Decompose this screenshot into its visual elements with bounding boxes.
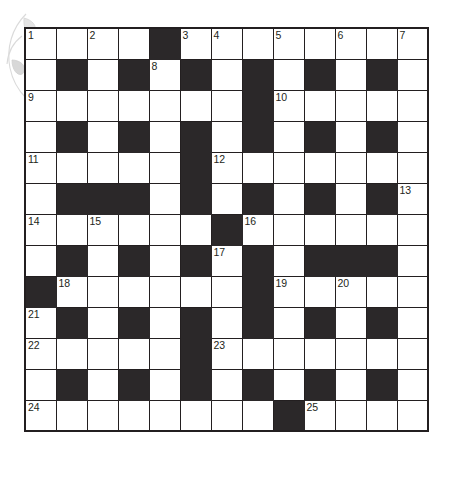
crossword-cell[interactable]	[87, 90, 118, 121]
crossword-cell[interactable]	[273, 307, 304, 338]
crossword-cell[interactable]	[149, 245, 180, 276]
crossword-cell[interactable]	[335, 183, 366, 214]
crossword-cell-numbered[interactable]: 24	[25, 400, 56, 431]
crossword-cell[interactable]	[25, 369, 56, 400]
crossword-cell[interactable]	[211, 276, 242, 307]
crossword-cell[interactable]	[180, 90, 211, 121]
crossword-cell[interactable]	[273, 369, 304, 400]
crossword-cell[interactable]	[304, 276, 335, 307]
crossword-cell-numbered[interactable]: 25	[304, 400, 335, 431]
crossword-cell-numbered[interactable]: 9	[25, 90, 56, 121]
crossword-cell[interactable]	[87, 338, 118, 369]
crossword-cell[interactable]	[366, 214, 397, 245]
crossword-cell[interactable]	[25, 121, 56, 152]
crossword-cell[interactable]	[366, 28, 397, 59]
crossword-cell[interactable]	[118, 90, 149, 121]
crossword-cell[interactable]	[118, 338, 149, 369]
crossword-cell[interactable]	[211, 183, 242, 214]
crossword-cell[interactable]	[56, 338, 87, 369]
crossword-cell-numbered[interactable]: 21	[25, 307, 56, 338]
crossword-cell-numbered[interactable]: 2	[87, 28, 118, 59]
crossword-cell[interactable]	[304, 214, 335, 245]
crossword-cell[interactable]	[87, 59, 118, 90]
crossword-cell[interactable]	[273, 121, 304, 152]
crossword-cell-numbered[interactable]: 6	[335, 28, 366, 59]
crossword-cell[interactable]	[149, 400, 180, 431]
crossword-cell[interactable]	[180, 400, 211, 431]
crossword-cell[interactable]	[366, 338, 397, 369]
crossword-cell[interactable]	[242, 400, 273, 431]
crossword-cell[interactable]	[335, 338, 366, 369]
crossword-cell[interactable]	[118, 28, 149, 59]
crossword-cell[interactable]	[118, 400, 149, 431]
crossword-cell[interactable]	[304, 152, 335, 183]
crossword-cell-numbered[interactable]: 12	[211, 152, 242, 183]
crossword-cell-numbered[interactable]: 20	[335, 276, 366, 307]
crossword-cell[interactable]	[211, 59, 242, 90]
crossword-cell-numbered[interactable]: 10	[273, 90, 304, 121]
crossword-cell[interactable]	[211, 369, 242, 400]
crossword-cell-numbered[interactable]: 8	[149, 59, 180, 90]
crossword-cell[interactable]	[87, 400, 118, 431]
crossword-cell[interactable]	[335, 90, 366, 121]
crossword-cell-numbered[interactable]: 4	[211, 28, 242, 59]
crossword-cell[interactable]	[397, 338, 428, 369]
crossword-cell-numbered[interactable]: 17	[211, 245, 242, 276]
crossword-cell[interactable]	[180, 276, 211, 307]
crossword-cell[interactable]	[397, 59, 428, 90]
crossword-cell[interactable]	[335, 59, 366, 90]
crossword-cell[interactable]	[149, 183, 180, 214]
crossword-cell[interactable]	[25, 59, 56, 90]
crossword-cell[interactable]	[149, 369, 180, 400]
crossword-cell[interactable]	[397, 245, 428, 276]
crossword-cell[interactable]	[87, 121, 118, 152]
crossword-cell[interactable]	[149, 338, 180, 369]
crossword-cell[interactable]	[397, 121, 428, 152]
crossword-cell[interactable]	[304, 338, 335, 369]
crossword-cell[interactable]	[273, 245, 304, 276]
crossword-cell[interactable]	[149, 307, 180, 338]
crossword-cell[interactable]	[366, 400, 397, 431]
crossword-cell[interactable]	[87, 369, 118, 400]
crossword-cell[interactable]	[180, 214, 211, 245]
crossword-cell[interactable]	[149, 121, 180, 152]
crossword-cell[interactable]	[335, 152, 366, 183]
crossword-cell-numbered[interactable]: 1	[25, 28, 56, 59]
crossword-cell[interactable]	[211, 307, 242, 338]
crossword-cell[interactable]	[242, 152, 273, 183]
crossword-cell[interactable]	[211, 400, 242, 431]
crossword-cell[interactable]	[87, 245, 118, 276]
crossword-cell-numbered[interactable]: 5	[273, 28, 304, 59]
crossword-cell[interactable]	[149, 276, 180, 307]
crossword-cell[interactable]	[397, 369, 428, 400]
crossword-grid[interactable]: 1234567891011121314151617181920212223242…	[24, 27, 429, 432]
crossword-cell-numbered[interactable]: 7	[397, 28, 428, 59]
crossword-cell[interactable]	[273, 214, 304, 245]
crossword-cell[interactable]	[56, 214, 87, 245]
crossword-cell[interactable]	[273, 338, 304, 369]
crossword-cell[interactable]	[397, 276, 428, 307]
crossword-cell[interactable]	[242, 28, 273, 59]
crossword-cell[interactable]	[87, 276, 118, 307]
crossword-cell[interactable]	[273, 183, 304, 214]
crossword-cell[interactable]	[25, 245, 56, 276]
crossword-cell[interactable]	[56, 400, 87, 431]
crossword-cell[interactable]	[242, 338, 273, 369]
crossword-cell[interactable]	[149, 90, 180, 121]
crossword-cell[interactable]	[211, 121, 242, 152]
crossword-cell[interactable]	[149, 152, 180, 183]
crossword-cell[interactable]	[56, 90, 87, 121]
crossword-cell[interactable]	[335, 369, 366, 400]
crossword-cell[interactable]	[366, 90, 397, 121]
crossword-cell[interactable]	[397, 307, 428, 338]
crossword-cell[interactable]	[335, 121, 366, 152]
crossword-cell[interactable]	[273, 152, 304, 183]
crossword-cell[interactable]	[366, 276, 397, 307]
crossword-cell-numbered[interactable]: 19	[273, 276, 304, 307]
crossword-cell-numbered[interactable]: 15	[87, 214, 118, 245]
crossword-cell-numbered[interactable]: 22	[25, 338, 56, 369]
crossword-cell[interactable]	[87, 152, 118, 183]
crossword-cell[interactable]	[304, 28, 335, 59]
crossword-cell-numbered[interactable]: 18	[56, 276, 87, 307]
crossword-cell[interactable]	[397, 214, 428, 245]
